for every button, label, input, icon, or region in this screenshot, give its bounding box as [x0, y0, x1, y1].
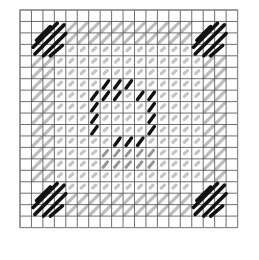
background-dot — [139, 128, 142, 131]
motif-stitch-gray — [103, 150, 107, 155]
band-stitch — [79, 34, 87, 42]
background-dot — [139, 105, 142, 108]
background-dot — [184, 139, 187, 142]
background-dot — [58, 116, 61, 119]
background-dot — [116, 71, 119, 74]
background-dot — [81, 94, 84, 97]
band-stitch — [159, 34, 167, 42]
background-dot — [161, 185, 164, 188]
background-dot — [70, 105, 73, 108]
band-stitch — [136, 34, 144, 42]
background-dot — [173, 128, 176, 131]
band-stitch — [102, 34, 110, 42]
band-stitch — [79, 195, 87, 203]
background-dot — [196, 174, 199, 177]
background-dot — [70, 116, 73, 119]
motif-stitch-gray — [126, 150, 130, 155]
background-dot — [173, 162, 176, 165]
background-dot — [58, 162, 61, 165]
band-stitch — [90, 206, 98, 214]
band-stitch — [205, 160, 213, 168]
band-stitch — [216, 172, 224, 180]
band-stitch — [182, 195, 190, 203]
background-dot — [81, 151, 84, 154]
background-dot — [81, 139, 84, 142]
motif-stitch — [92, 104, 97, 111]
band-stitch — [147, 23, 155, 31]
background-dot — [93, 151, 96, 154]
motif-stitch — [92, 92, 97, 99]
background-dot — [70, 59, 73, 62]
background-dot — [58, 139, 61, 142]
background-dot — [161, 105, 164, 108]
background-dot — [196, 59, 199, 62]
background-dot — [196, 128, 199, 131]
background-dot — [150, 71, 153, 74]
background-dot — [173, 185, 176, 188]
background-dot — [58, 71, 61, 74]
background-dot — [173, 82, 176, 85]
background-dot — [93, 71, 96, 74]
band-stitch — [136, 23, 144, 31]
background-dot — [139, 82, 142, 85]
background-dot — [150, 59, 153, 62]
background-dot — [70, 48, 73, 51]
band-stitch — [33, 160, 41, 168]
band-stitch — [90, 23, 98, 31]
background-dot — [58, 128, 61, 131]
background-dot — [196, 151, 199, 154]
background-dot — [150, 139, 153, 142]
background-dot — [127, 48, 130, 51]
band-stitch — [44, 92, 52, 100]
motif-stitch-gray — [115, 162, 119, 167]
band-stitch — [44, 160, 52, 168]
motif-stitch — [149, 115, 154, 122]
band-stitch — [170, 206, 178, 214]
background-dot — [139, 71, 142, 74]
background-dot — [58, 105, 61, 108]
band-stitch — [216, 160, 224, 168]
band-stitch — [182, 34, 190, 42]
background-dot — [58, 59, 61, 62]
background-dot — [93, 82, 96, 85]
motif-stitch-gray — [149, 162, 153, 167]
band-stitch — [125, 34, 133, 42]
background-dot — [161, 128, 164, 131]
band-stitch — [205, 137, 213, 145]
band-stitch — [90, 195, 98, 203]
band-stitch — [159, 195, 167, 203]
band-stitch — [205, 149, 213, 157]
band-stitch — [136, 206, 144, 214]
background-dot — [184, 94, 187, 97]
background-dot — [116, 185, 119, 188]
band-stitch — [216, 103, 224, 111]
motif-stitch — [149, 104, 154, 111]
background-dot — [184, 105, 187, 108]
band-stitch — [216, 69, 224, 77]
background-dot — [81, 174, 84, 177]
motif-stitch — [115, 92, 120, 99]
background-dot — [104, 174, 107, 177]
band-stitch — [44, 69, 52, 77]
band-stitch — [33, 57, 41, 65]
background-dot — [70, 128, 73, 131]
band-stitch — [216, 92, 224, 100]
background-dot — [104, 105, 107, 108]
background-dot — [127, 71, 130, 74]
background-dot — [184, 162, 187, 165]
band-stitch — [125, 206, 133, 214]
background-dot — [161, 151, 164, 154]
band-stitch — [33, 103, 41, 111]
band-stitch — [125, 195, 133, 203]
motif-stitch — [103, 92, 108, 99]
band-stitch — [147, 195, 155, 203]
band-stitch — [90, 34, 98, 42]
background-dot — [196, 71, 199, 74]
background-dot — [81, 128, 84, 131]
band-stitch — [170, 23, 178, 31]
motif-stitch-gray — [138, 162, 142, 167]
background-dot — [161, 116, 164, 119]
background-dot — [150, 82, 153, 85]
band-stitch — [216, 126, 224, 134]
background-dot — [184, 151, 187, 154]
